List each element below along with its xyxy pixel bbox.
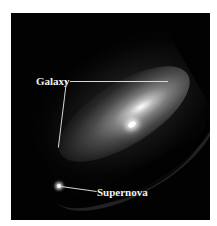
galaxy-pointer-line-horizontal [70,81,168,82]
supernova-label: Supernova [97,186,148,198]
galaxy-label: Galaxy [36,75,70,87]
